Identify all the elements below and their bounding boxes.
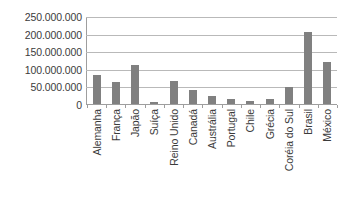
x-label-slot: Chile [241, 109, 260, 197]
x-label-slot: Reino Unido [164, 109, 183, 197]
x-label-slot: Suíça [145, 109, 164, 197]
x-axis-category-label: Canadá [188, 109, 198, 145]
x-label-slot: Canadá [183, 109, 202, 197]
x-label-slot: Brasil [299, 109, 318, 197]
x-label-slot: Coréia do Sul [279, 109, 298, 197]
bar[interactable] [93, 75, 101, 104]
bar-slot [125, 17, 144, 104]
x-axis-category-label: Alemanha [92, 109, 102, 155]
bar-slot [106, 17, 125, 104]
x-axis-tick [279, 105, 280, 108]
bar[interactable] [266, 99, 274, 104]
bar[interactable] [227, 99, 235, 104]
x-axis-category-label: Grécia [265, 109, 275, 139]
y-axis-tick-label: 150.000.000 [25, 47, 82, 57]
y-axis-tick-label: 0 [76, 100, 82, 110]
x-label-slot: México [318, 109, 337, 197]
bar-slot [164, 17, 183, 104]
bar-chart: 250.000.000200.000.000150.000.000100.000… [0, 0, 356, 199]
x-axis-tick [222, 105, 223, 108]
x-axis-tick [260, 105, 261, 108]
x-axis-category-label: França [111, 109, 121, 141]
plot-area [86, 17, 337, 105]
bar[interactable] [150, 102, 158, 104]
y-axis-tick-label: 50.000.000 [30, 82, 82, 92]
y-axis-tick-label: 200.000.000 [25, 30, 82, 40]
x-axis-category-label: Brasil [303, 109, 313, 135]
bar[interactable] [246, 101, 254, 104]
bar[interactable] [112, 82, 120, 104]
bar[interactable] [170, 81, 178, 104]
x-label-slot: Austrália [202, 109, 221, 197]
bar-slot [87, 17, 106, 104]
x-axis-tick [183, 105, 184, 108]
x-axis-tick [337, 105, 338, 108]
x-axis-category-label: Reino Unido [169, 109, 179, 166]
x-axis-category-labels: AlemanhaFrançaJapãoSuíçaReino UnidoCanad… [87, 109, 337, 197]
bar[interactable] [208, 96, 216, 104]
bar[interactable] [285, 87, 293, 104]
bar-slot [241, 17, 260, 104]
x-axis-category-label: México [322, 109, 332, 142]
x-axis-category-label: Chile [245, 109, 255, 132]
x-axis-category-label: Suíça [149, 109, 159, 135]
bar-slot [202, 17, 221, 104]
bar[interactable] [304, 32, 312, 104]
x-label-slot: Grécia [260, 109, 279, 197]
x-axis-tick [87, 105, 88, 108]
x-axis-category-label: Portugal [226, 109, 236, 147]
bar-slot [145, 17, 164, 104]
bar-slot [183, 17, 202, 104]
x-label-slot: França [106, 109, 125, 197]
x-label-slot: Alemanha [87, 109, 106, 197]
x-axis-tick [125, 105, 126, 108]
x-axis-tick [145, 105, 146, 108]
bar-slot [299, 17, 318, 104]
x-axis-category-label: Austrália [207, 109, 217, 149]
y-axis-tick-labels: 250.000.000200.000.000150.000.000100.000… [0, 0, 82, 120]
x-axis-tick [106, 105, 107, 108]
y-axis-tick-label: 100.000.000 [25, 65, 82, 75]
x-axis-tick [164, 105, 165, 108]
bar-slot [279, 17, 298, 104]
bar-slot [260, 17, 279, 104]
x-axis-category-label: Japão [130, 109, 140, 137]
x-axis-tick [299, 105, 300, 108]
bar[interactable] [323, 62, 331, 104]
bar[interactable] [131, 65, 139, 104]
bar-series [87, 17, 337, 104]
x-axis-tick [202, 105, 203, 108]
x-label-slot: Japão [125, 109, 144, 197]
bar-slot [222, 17, 241, 104]
bar-slot [318, 17, 337, 104]
x-axis-category-label: Coréia do Sul [284, 109, 294, 171]
bar[interactable] [189, 90, 197, 104]
x-label-slot: Portugal [222, 109, 241, 197]
y-axis-tick-label: 250.000.000 [25, 12, 82, 22]
x-axis-tick [318, 105, 319, 108]
x-axis-tick [241, 105, 242, 108]
